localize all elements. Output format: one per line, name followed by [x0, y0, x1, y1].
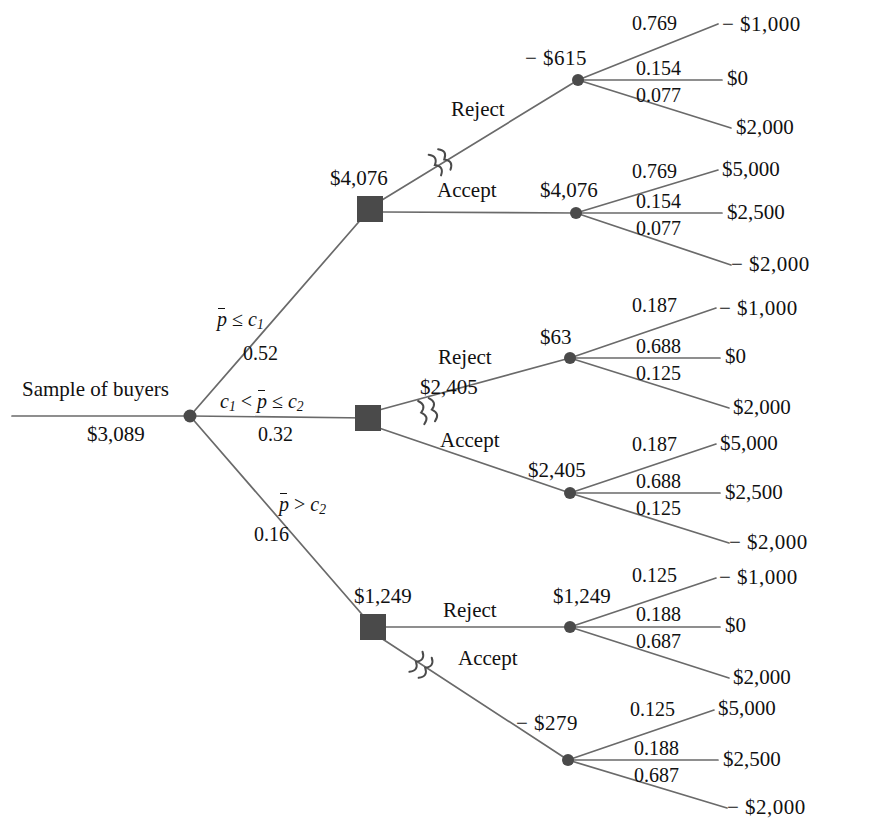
chance-node-top-reject [572, 74, 584, 86]
outcome-top-reject-1: − $1,000 [722, 14, 801, 35]
outcome-mid-reject-1: − $1,000 [719, 298, 798, 319]
decision-value-middle: $2,405 [420, 377, 478, 398]
pruned-mark-top-reject [429, 147, 454, 175]
outcome-mid-accept-2: $2,500 [725, 482, 783, 503]
node-value-mid-reject: $63 [540, 327, 572, 348]
outcome-top-reject-2: $0 [727, 68, 748, 89]
prob-mid-accept-2: 0.688 [636, 471, 681, 491]
outcome-top-accept-2: $2,500 [727, 202, 785, 223]
action-label-mid-accept: Accept [440, 430, 499, 451]
action-label-top-accept: Accept [437, 180, 496, 201]
chance-node-bot-accept [562, 754, 574, 766]
branch-probability-middle: 0.32 [258, 424, 293, 444]
node-value-bot-reject: $1,249 [553, 586, 611, 607]
branch-probability-top: 0.52 [243, 343, 278, 363]
chance-node-bot-reject [564, 621, 576, 633]
prob-bot-reject-1: 0.125 [632, 565, 677, 585]
outcome-mid-reject-2: $0 [725, 346, 746, 367]
decision-value-top: $4,076 [330, 168, 388, 189]
action-label-bot-accept: Accept [458, 648, 517, 669]
branch-condition-middle: c1 < p ≤ c2 [220, 391, 304, 414]
edge-root-to-bottom [190, 416, 373, 627]
prob-top-reject-2: 0.154 [636, 58, 681, 78]
prob-top-accept-3: 0.077 [636, 218, 681, 238]
prob-bot-reject-3: 0.687 [636, 631, 681, 651]
outcome-top-accept-3: − $2,000 [731, 254, 810, 275]
branch-condition-top: p ≤ c1 [217, 309, 264, 332]
decision-node-middle [355, 405, 381, 431]
node-value-top-accept: $4,076 [540, 180, 598, 201]
decision-tree-diagram: Sample of buyers $3,089 p ≤ c1 0.52 c1 <… [0, 0, 869, 831]
outcome-bot-accept-2: $2,500 [723, 749, 781, 770]
root-value: $3,089 [87, 424, 145, 445]
action-label-mid-reject: Reject [438, 347, 492, 368]
outcome-mid-accept-1: $5,000 [720, 433, 778, 454]
action-label-top-reject: Reject [451, 99, 505, 120]
chance-node-mid-reject [564, 352, 576, 364]
prob-bot-accept-2: 0.188 [634, 738, 679, 758]
branch-probability-bottom: 0.16 [254, 524, 289, 544]
action-label-bot-reject: Reject [443, 600, 497, 621]
branch-condition-bottom: p > c2 [279, 494, 326, 517]
prob-mid-reject-1: 0.187 [632, 295, 677, 315]
prob-mid-accept-3: 0.125 [636, 498, 681, 518]
prob-bot-reject-2: 0.188 [636, 604, 681, 624]
prob-bot-accept-1: 0.125 [630, 699, 675, 719]
outcome-bot-reject-2: $0 [725, 615, 746, 636]
prob-mid-reject-3: 0.125 [636, 363, 681, 383]
outcome-mid-reject-3: $2,000 [733, 397, 791, 418]
prob-mid-accept-1: 0.187 [632, 434, 677, 454]
chance-node-top-accept [570, 207, 582, 219]
prob-top-accept-1: 0.769 [632, 161, 677, 181]
edge-root-to-middle [190, 416, 367, 418]
node-value-mid-accept: $2,405 [528, 460, 586, 481]
prob-top-reject-3: 0.077 [636, 85, 681, 105]
outcome-bot-reject-3: $2,000 [733, 667, 791, 688]
outcome-bot-accept-1: $5,000 [718, 698, 776, 719]
chance-node-root [184, 410, 197, 423]
outcome-bot-accept-3: − $2,000 [727, 797, 806, 818]
chance-node-mid-accept [564, 487, 576, 499]
node-value-top-reject: − $615 [525, 48, 587, 69]
prob-top-reject-1: 0.769 [632, 13, 677, 33]
outcome-mid-accept-3: − $2,000 [729, 532, 808, 553]
node-value-bot-accept: − $279 [516, 713, 578, 734]
root-label: Sample of buyers [22, 379, 169, 400]
prob-mid-reject-2: 0.688 [636, 336, 681, 356]
outcome-top-accept-1: $5,000 [722, 159, 780, 180]
prob-bot-accept-3: 0.687 [634, 765, 679, 785]
pruned-mark-mid-reject [418, 397, 438, 424]
outcome-top-reject-3: $2,000 [736, 117, 794, 138]
prob-top-accept-2: 0.154 [636, 191, 681, 211]
decision-value-bottom: $1,249 [354, 586, 412, 607]
decision-node-top [357, 196, 383, 222]
edge-top-accept [383, 212, 576, 213]
outcome-bot-reject-1: − $1,000 [719, 567, 798, 588]
decision-node-bottom [360, 614, 386, 640]
